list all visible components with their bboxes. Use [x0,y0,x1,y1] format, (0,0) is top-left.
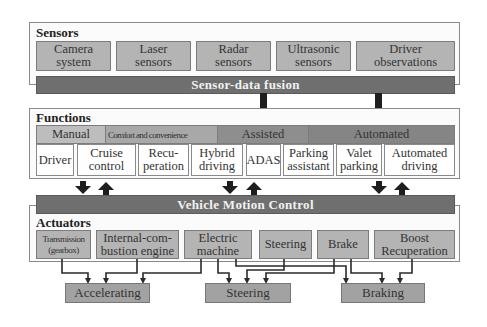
output-accelerating: Accelerating [65,283,150,303]
actuator-connectors [0,0,487,327]
output-steering: Steering [205,283,291,303]
output-braking: Braking [341,283,425,303]
